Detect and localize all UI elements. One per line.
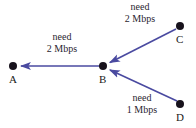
- edge-label-c-to-b-line2: 2 Mbps: [100, 13, 180, 25]
- node-label-a: A: [9, 74, 17, 85]
- edge-label-d-to-b: need 1 Mbps: [102, 92, 182, 116]
- edge-label-c-to-b: need 2 Mbps: [100, 1, 180, 25]
- edge-label-b-to-a: need 2 Mbps: [22, 31, 102, 55]
- diagram-canvas: A B C D need 2 Mbps need 2 Mbps need 1 M…: [0, 0, 196, 128]
- edge-c-to-b: [110, 29, 176, 63]
- edge-label-b-to-a-line2: 2 Mbps: [22, 43, 102, 55]
- node-label-b: B: [99, 74, 106, 85]
- node-label-c: C: [176, 34, 183, 45]
- node-b: [99, 62, 107, 70]
- edge-label-b-to-a-line1: need: [22, 31, 102, 43]
- edge-label-d-to-b-line1: need: [102, 92, 182, 104]
- node-a: [9, 62, 17, 70]
- edge-label-c-to-b-line1: need: [100, 1, 180, 13]
- edge-label-d-to-b-line2: 1 Mbps: [102, 104, 182, 116]
